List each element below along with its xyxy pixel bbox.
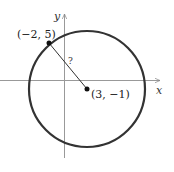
radius-segment — [49, 43, 87, 89]
y-axis-label: y — [53, 10, 61, 23]
point-on-circle-label: (−2, 5) — [17, 28, 56, 41]
radius-label: ? — [68, 56, 73, 66]
point-on-circle — [47, 41, 52, 46]
center-point — [85, 87, 90, 92]
circle-diagram: (−2, 5) (3, −1) ? x y — [0, 0, 174, 172]
center-label: (3, −1) — [91, 88, 130, 101]
x-axis-label: x — [156, 84, 163, 97]
